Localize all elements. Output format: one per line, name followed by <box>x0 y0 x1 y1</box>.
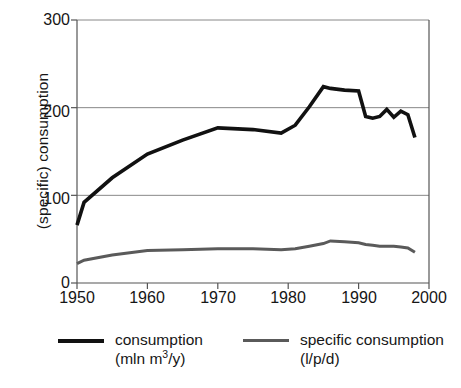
legend-swatch-consumption <box>58 339 104 343</box>
legend-label-unit: (l/p/d) <box>300 349 444 368</box>
data-series <box>77 87 415 264</box>
legend-swatch-specific-consumption <box>243 339 289 342</box>
x-tick-label: 1990 <box>329 289 389 307</box>
legend-label-unit: (mln m3/y) <box>115 349 203 368</box>
chart-legend: consumption (mln m3/y) specific consumpt… <box>0 330 461 388</box>
legend-label-consumption: consumption (mln m3/y) <box>115 330 203 368</box>
y-tick-label: 200 <box>30 104 70 120</box>
legend-label-line1: specific consumption <box>300 331 444 348</box>
plot-area <box>77 20 429 283</box>
legend-label-line1: consumption <box>115 331 203 348</box>
x-tick-label: 1970 <box>188 289 248 307</box>
x-tick-label: 1950 <box>47 289 107 307</box>
x-tick-label: 2000 <box>399 289 459 307</box>
axis-frame <box>77 20 429 283</box>
gridlines <box>77 20 429 195</box>
legend-label-specific-consumption: specific consumption (l/p/d) <box>300 330 444 368</box>
chart-canvas <box>77 20 429 283</box>
y-tick-label: 100 <box>30 191 70 207</box>
x-tick-label: 1960 <box>117 289 177 307</box>
x-axis-tick-labels: 1950 1960 1970 1980 1990 2000 <box>0 289 461 311</box>
x-tick-label: 1980 <box>258 289 318 307</box>
y-tick-label: 300 <box>30 12 70 28</box>
chart-figure: (specific) consumption 300 200 100 0 195… <box>0 0 461 388</box>
